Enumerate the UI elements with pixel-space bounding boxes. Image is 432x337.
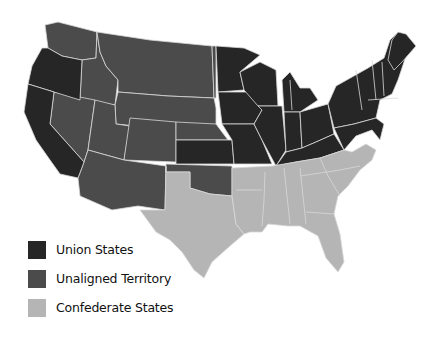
legend-label: Unaligned Territory [56, 271, 171, 286]
unaligned-region [45, 22, 232, 210]
legend-label: Union States [56, 242, 133, 257]
confederate-swatch [28, 299, 46, 317]
unaligned-swatch [28, 270, 46, 288]
union-swatch [28, 241, 46, 259]
legend-item-union: Union States [28, 240, 173, 259]
legend-item-unaligned: Unaligned Territory [28, 269, 173, 288]
legend-label: Confederate States [56, 300, 173, 315]
map-legend: Union States Unaligned Territory Confede… [28, 240, 173, 327]
legend-item-confederate: Confederate States [28, 298, 173, 317]
